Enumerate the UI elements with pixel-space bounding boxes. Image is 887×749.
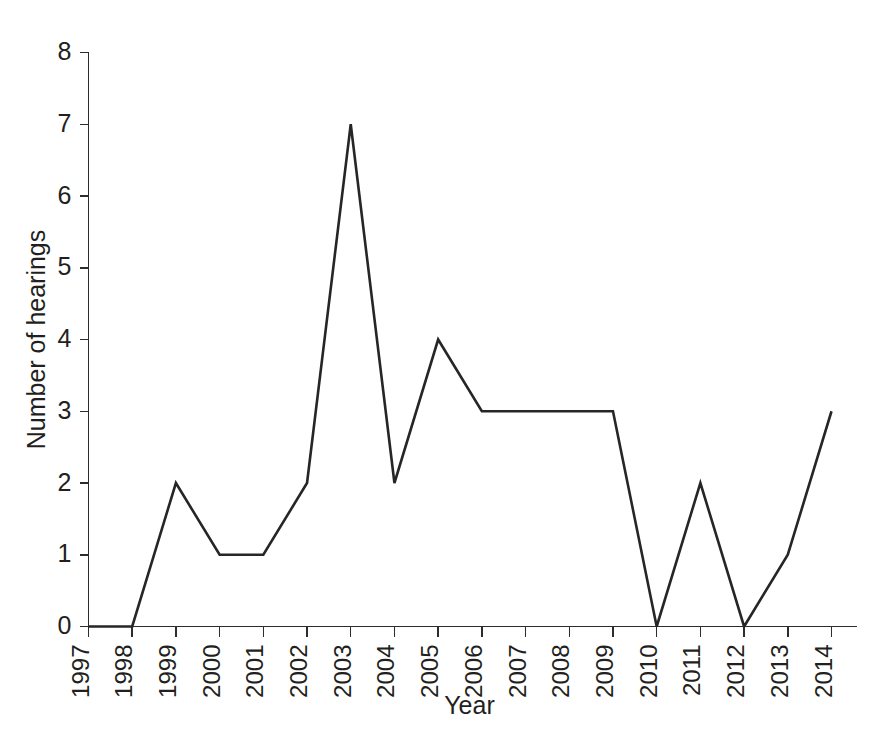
x-tick-label: 2013 (766, 645, 793, 698)
line-chart: 012345678 199719981999200020012002200320… (0, 0, 887, 749)
x-tick-label: 2007 (504, 645, 531, 698)
x-tick-label: 2004 (372, 645, 399, 698)
y-tick-label: 4 (58, 324, 72, 352)
x-tick-label: 2005 (416, 645, 443, 698)
y-tick-label: 0 (58, 611, 72, 639)
x-axis-title: Year (444, 691, 495, 719)
x-tick-label: 2014 (810, 645, 837, 698)
x-axis-ticks (89, 627, 832, 637)
y-tick-label: 8 (58, 37, 72, 65)
y-tick-label: 1 (58, 539, 72, 567)
y-tick-label: 7 (58, 109, 72, 137)
x-tick-label: 2000 (198, 645, 225, 698)
x-tick-label: 2003 (329, 645, 356, 698)
x-tick-label: 2008 (547, 645, 574, 698)
y-tick-label: 2 (58, 468, 72, 496)
data-series-line (89, 124, 832, 626)
x-tick-label: 2010 (635, 645, 662, 698)
y-axis-ticks (80, 53, 89, 627)
y-tick-label: 3 (58, 396, 72, 424)
y-axis-title: Number of hearings (22, 230, 50, 450)
y-tick-label: 6 (58, 181, 72, 209)
x-tick-label: 1997 (67, 645, 94, 698)
chart-figure: 012345678 199719981999200020012002200320… (0, 0, 887, 749)
x-tick-label: 1999 (154, 645, 181, 698)
x-tick-label: 2012 (722, 645, 749, 698)
x-tick-label: 2001 (241, 645, 268, 698)
x-tick-label: 2002 (285, 645, 312, 698)
y-tick-label: 5 (58, 252, 72, 280)
y-axis-tick-labels: 012345678 (58, 37, 72, 639)
x-tick-label: 2011 (678, 645, 705, 697)
x-tick-label: 1998 (110, 645, 137, 698)
x-tick-label: 2009 (591, 645, 618, 698)
x-axis-tick-labels: 1997199819992000200120022003200420052006… (67, 645, 837, 698)
x-tick-label: 2006 (460, 645, 487, 698)
